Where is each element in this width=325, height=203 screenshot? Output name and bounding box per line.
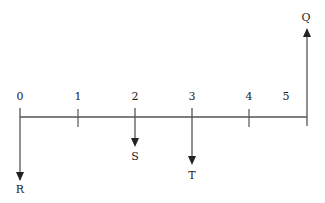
flow-label-t: T (188, 169, 196, 182)
flow-label-s: S (131, 150, 139, 163)
flow-label-r: R (16, 183, 25, 196)
cash-flow-diagram: 0 1 2 3 4 5 R S T Q (0, 0, 325, 203)
flow-label-q: Q (301, 11, 310, 24)
arrowhead-s (131, 138, 139, 147)
tick-label-3: 3 (189, 90, 196, 103)
arrowhead-t (188, 156, 196, 165)
tick-label-4: 4 (246, 90, 253, 103)
tick-label-2: 2 (132, 90, 139, 103)
tick-label-0: 0 (17, 90, 24, 103)
tick-label-5: 5 (283, 90, 290, 103)
arrowhead-q (303, 28, 311, 37)
tick-label-1: 1 (75, 90, 82, 103)
arrowhead-r (16, 172, 24, 181)
